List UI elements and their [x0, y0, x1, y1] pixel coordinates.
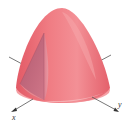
x-axis-label: x — [11, 113, 16, 121]
y-axis-label: y — [117, 100, 122, 109]
x-axis-arrowhead — [11, 108, 17, 113]
paraboloid-wedge-diagram: x y — [0, 0, 130, 121]
y-axis-line — [92, 97, 116, 110]
